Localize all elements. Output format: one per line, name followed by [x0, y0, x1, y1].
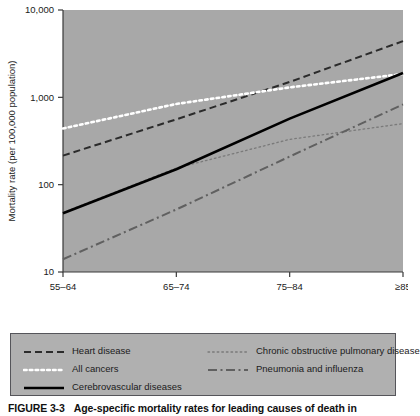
legend-item-label: Pneumonia and influenza — [256, 363, 363, 374]
legend-item: Pneumonia and influenza — [207, 361, 363, 375]
chart-legend: Heart diseaseChronic obstructive pulmona… — [10, 333, 396, 396]
mortality-line-chart: 101001,00010,00055–6465–7475–84≥85Age (y… — [0, 0, 408, 300]
legend-item: All cancers — [23, 361, 118, 375]
figure-caption-number: FIGURE 3-3 — [8, 402, 65, 414]
x-axis-tick-label: ≥85 — [395, 281, 408, 292]
legend-item-label: Heart disease — [72, 345, 131, 356]
y-axis-tick-label: 10 — [43, 266, 54, 277]
y-axis-tick-label: 10,000 — [25, 4, 54, 15]
legend-item-label: Cerebrovascular diseases — [72, 381, 182, 392]
legend-swatch-icon — [23, 362, 65, 374]
x-axis-tick-label: 65–74 — [163, 281, 189, 292]
legend-grid: Heart diseaseChronic obstructive pulmona… — [11, 334, 395, 395]
x-axis-tick-label: 75–84 — [276, 281, 302, 292]
legend-item: Heart disease — [23, 343, 131, 357]
figure-caption: FIGURE 3-3Age-specific mortality rates f… — [8, 402, 408, 414]
x-axis-tick-label: 55–64 — [50, 281, 76, 292]
figure-caption-text: Age-specific mortality rates for leading… — [74, 402, 357, 414]
y-axis-tick-label: 100 — [38, 179, 54, 190]
plot-background — [63, 10, 403, 272]
legend-item-label: Chronic obstructive pulmonary disease — [256, 345, 420, 356]
chart-plot-area: 101001,00010,00055–6465–7475–84≥85Age (y… — [0, 0, 408, 300]
legend-item-label: All cancers — [72, 363, 118, 374]
legend-item: Chronic obstructive pulmonary disease — [207, 343, 420, 357]
x-axis-title: Age (years) — [208, 299, 257, 300]
legend-swatch-icon — [23, 344, 65, 356]
legend-swatch-icon — [23, 380, 65, 392]
y-axis-tick-label: 1,000 — [30, 92, 54, 103]
y-axis-title: Mortality rate (per 100,000 population) — [6, 60, 17, 221]
legend-swatch-icon — [207, 344, 249, 356]
legend-swatch-icon — [207, 362, 249, 374]
legend-item: Cerebrovascular diseases — [23, 379, 182, 393]
